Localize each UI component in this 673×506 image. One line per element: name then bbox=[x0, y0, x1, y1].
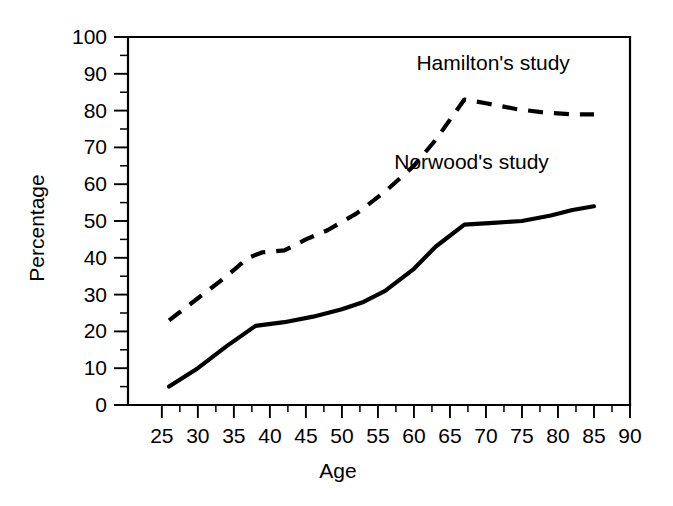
x-tick-label: 40 bbox=[258, 424, 281, 447]
series-label-norwoods-study: Norwood's study bbox=[394, 150, 549, 173]
x-tick-label: 25 bbox=[150, 424, 173, 447]
chart-figure: 0102030405060708090100 25303540455055606… bbox=[0, 0, 673, 506]
x-tick-label: 80 bbox=[546, 424, 569, 447]
series-line-norwoods-study bbox=[169, 206, 594, 386]
y-tick-label: 30 bbox=[84, 283, 107, 306]
y-tick-label: 90 bbox=[84, 62, 107, 85]
y-tick-label: 0 bbox=[95, 393, 107, 416]
line-chart: 0102030405060708090100 25303540455055606… bbox=[0, 0, 673, 506]
y-tick-label: 60 bbox=[84, 172, 107, 195]
series-label-hamiltons-study: Hamilton's study bbox=[416, 51, 570, 74]
x-tick-label: 30 bbox=[186, 424, 209, 447]
x-tick-label: 35 bbox=[222, 424, 245, 447]
x-tick-label: 45 bbox=[294, 424, 317, 447]
y-tick-label: 70 bbox=[84, 135, 107, 158]
y-tick-label: 100 bbox=[72, 25, 107, 48]
y-tick-label: 20 bbox=[84, 319, 107, 342]
series-line-hamiltons-study bbox=[169, 100, 594, 321]
x-tick-label: 60 bbox=[402, 424, 425, 447]
y-axis-title: Percentage bbox=[25, 174, 48, 281]
x-axis-title: Age bbox=[319, 459, 356, 482]
y-tick-label: 50 bbox=[84, 209, 107, 232]
y-tick-label: 80 bbox=[84, 99, 107, 122]
x-axis-tick-labels: 2530354045505560657075808590 bbox=[150, 424, 642, 447]
x-tick-label: 65 bbox=[438, 424, 461, 447]
x-tick-label: 50 bbox=[330, 424, 353, 447]
x-tick-label: 90 bbox=[618, 424, 641, 447]
y-tick-label: 40 bbox=[84, 246, 107, 269]
y-axis-tick-labels: 0102030405060708090100 bbox=[72, 25, 107, 416]
x-tick-label: 55 bbox=[366, 424, 389, 447]
x-tick-label: 70 bbox=[474, 424, 497, 447]
x-tick-label: 85 bbox=[582, 424, 605, 447]
x-tick-label: 75 bbox=[510, 424, 533, 447]
y-tick-label: 10 bbox=[84, 356, 107, 379]
